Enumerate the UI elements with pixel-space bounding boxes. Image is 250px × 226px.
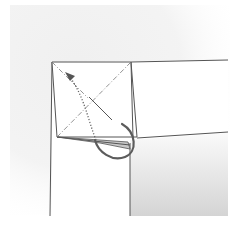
shaded-region — [130, 133, 228, 216]
origami-diagram — [0, 0, 250, 226]
square-flap — [52, 62, 137, 149]
